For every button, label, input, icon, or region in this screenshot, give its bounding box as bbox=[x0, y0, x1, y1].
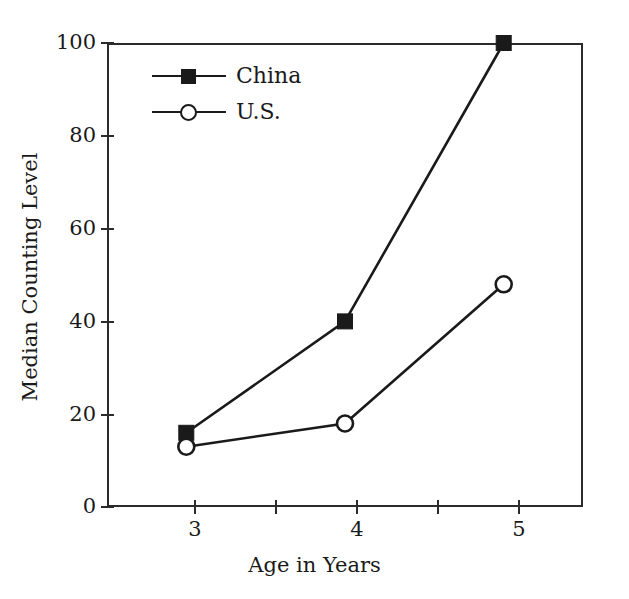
filled-square-marker-icon bbox=[181, 69, 196, 84]
open-circle-marker-icon bbox=[496, 276, 512, 292]
filled-square-marker-icon bbox=[338, 314, 353, 329]
legend-sample-china bbox=[152, 66, 226, 86]
chart-legend: China U.S. bbox=[152, 58, 382, 130]
legend-sample-us bbox=[152, 102, 226, 122]
open-circle-marker-icon bbox=[180, 104, 197, 121]
open-circle-marker-icon bbox=[337, 416, 353, 432]
legend-entry-us: U.S. bbox=[152, 94, 382, 130]
legend-label-us: U.S. bbox=[226, 101, 281, 123]
open-circle-marker-icon bbox=[178, 439, 194, 455]
series-us bbox=[178, 276, 511, 454]
filled-square-marker-icon bbox=[496, 36, 511, 51]
chart-figure: 100 80 60 40 20 0 3 4 5 Age in Years Med… bbox=[0, 0, 629, 599]
legend-entry-china: China bbox=[152, 58, 382, 94]
legend-label-china: China bbox=[226, 65, 301, 87]
